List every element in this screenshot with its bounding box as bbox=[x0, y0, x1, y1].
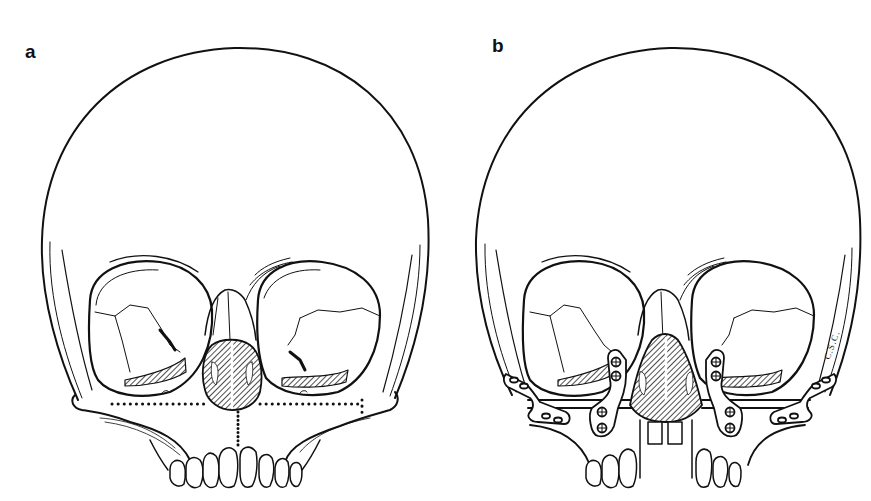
panel-a: a bbox=[0, 0, 440, 501]
teeth-a bbox=[170, 447, 302, 487]
teeth-b bbox=[586, 449, 741, 487]
panel-b: b bbox=[430, 0, 871, 501]
skull-drawing-a bbox=[0, 0, 440, 501]
fixation-plate-right bbox=[706, 350, 742, 436]
skull-drawing-b bbox=[430, 0, 871, 501]
